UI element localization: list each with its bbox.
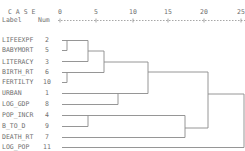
dendrogram-branches	[62, 41, 244, 148]
axis-ticks	[60, 19, 241, 23]
dendrogram-lines	[0, 0, 245, 151]
